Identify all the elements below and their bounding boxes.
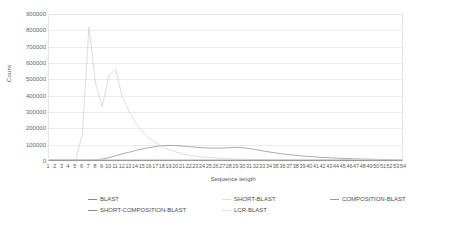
y-axis-tick-label: 300000 <box>2 109 46 115</box>
x-axis-tick-label: 30 <box>239 163 245 169</box>
x-axis-tick-label: 45 <box>340 163 346 169</box>
x-axis-tick-label: 13 <box>125 163 131 169</box>
legend-item[interactable]: LCR-BLAST <box>222 207 267 214</box>
x-axis-tick-label: 19 <box>166 163 172 169</box>
x-axis-tick-label: 46 <box>346 163 352 169</box>
x-axis-tick-label: 42 <box>320 163 326 169</box>
legend-item[interactable]: SHORT-BLAST <box>222 196 276 203</box>
y-axis-tick-label: 400000 <box>2 93 46 99</box>
x-axis-tick-label: 17 <box>152 163 158 169</box>
x-axis-tick-label: 18 <box>159 163 165 169</box>
y-axis-tick-label: 0 <box>2 158 46 164</box>
x-axis-tick-label: 23 <box>192 163 198 169</box>
legend-item-label: BLAST <box>100 196 119 203</box>
series-lines <box>49 14 402 160</box>
x-axis-tick-label: 32 <box>253 163 259 169</box>
plot-inner <box>49 14 402 160</box>
x-axis-tick-label: 47 <box>353 163 359 169</box>
legend: BLASTSHORT-BLASTCOMPOSITION-BLAST SHORT-… <box>0 196 466 224</box>
x-axis-tick-label: 52 <box>387 163 393 169</box>
legend-item[interactable]: BLAST <box>88 196 119 203</box>
x-axis-tick-label: 7 <box>87 163 90 169</box>
legend-line-swatch-icon <box>88 199 97 200</box>
x-axis-tick-labels: 1234567891011121314151617181920212223242… <box>48 163 403 175</box>
x-axis-tick-label: 40 <box>306 163 312 169</box>
x-axis-tick-label: 35 <box>273 163 279 169</box>
x-axis-tick-label: 27 <box>219 163 225 169</box>
x-axis-tick-label: 37 <box>286 163 292 169</box>
y-axis-tick-label: 600000 <box>2 60 46 66</box>
x-axis-tick-label: 48 <box>360 163 366 169</box>
x-axis-tick-label: 54 <box>400 163 406 169</box>
x-axis-tick-label: 15 <box>139 163 145 169</box>
y-axis-tick-label: 900000 <box>2 11 46 17</box>
x-axis-tick-label: 34 <box>266 163 272 169</box>
x-axis-tick-label: 49 <box>367 163 373 169</box>
x-axis-tick-label: 43 <box>326 163 332 169</box>
x-axis-tick-label: 12 <box>119 163 125 169</box>
x-axis-tick-label: 33 <box>259 163 265 169</box>
x-axis-tick-label: 41 <box>313 163 319 169</box>
y-axis-tick-label: 500000 <box>2 76 46 82</box>
series-line <box>49 145 402 160</box>
x-axis-tick-label: 11 <box>112 163 118 169</box>
x-axis-title: Sequence length <box>0 176 466 182</box>
plot-area <box>48 14 403 161</box>
legend-item-label: LCR-BLAST <box>234 207 267 214</box>
x-axis-tick-label: 50 <box>373 163 379 169</box>
legend-line-swatch-icon <box>88 210 97 211</box>
x-axis-tick-label: 36 <box>279 163 285 169</box>
y-axis-tick-label: 200000 <box>2 125 46 131</box>
x-axis-tick-label: 3 <box>60 163 63 169</box>
x-axis-tick-label: 26 <box>212 163 218 169</box>
x-axis-tick-label: 1 <box>47 163 50 169</box>
x-axis-tick-label: 28 <box>226 163 232 169</box>
x-axis-tick-label: 22 <box>186 163 192 169</box>
legend-line-swatch-icon <box>222 199 231 200</box>
x-axis-tick-label: 9 <box>100 163 103 169</box>
x-axis-tick-label: 51 <box>380 163 386 169</box>
x-axis-tick-label: 29 <box>233 163 239 169</box>
x-axis-tick-label: 21 <box>179 163 185 169</box>
x-axis-tick-label: 2 <box>53 163 56 169</box>
x-axis-tick-label: 6 <box>80 163 83 169</box>
x-axis-tick-label: 25 <box>206 163 212 169</box>
x-axis-tick-label: 31 <box>246 163 252 169</box>
chart-container: Count 9000008000007000006000005000004000… <box>0 0 466 234</box>
x-axis-tick-label: 14 <box>132 163 138 169</box>
legend-item[interactable]: SHORT-COMPOSITION-BLAST <box>88 207 186 214</box>
legend-row-2: SHORT-COMPOSITION-BLASTLCR-BLAST <box>0 207 466 218</box>
x-axis-tick-label: 39 <box>300 163 306 169</box>
legend-item-label: COMPOSITION-BLAST <box>342 196 406 203</box>
x-axis-tick-label: 44 <box>333 163 339 169</box>
x-axis-tick-label: 16 <box>145 163 151 169</box>
legend-row-1: BLASTSHORT-BLASTCOMPOSITION-BLAST <box>0 196 466 207</box>
x-axis-tick-label: 10 <box>105 163 111 169</box>
x-axis-tick-label: 38 <box>293 163 299 169</box>
y-axis-tick-labels: 9000008000007000006000005000004000003000… <box>0 14 46 161</box>
legend-item-label: SHORT-COMPOSITION-BLAST <box>100 207 186 214</box>
y-axis-tick-label: 100000 <box>2 142 46 148</box>
x-axis-tick-label: 4 <box>67 163 70 169</box>
y-axis-tick-label: 700000 <box>2 44 46 50</box>
x-axis-tick-label: 8 <box>93 163 96 169</box>
x-axis-tick-label: 24 <box>199 163 205 169</box>
x-axis-tick-label: 20 <box>172 163 178 169</box>
x-axis-tick-label: 5 <box>73 163 76 169</box>
legend-line-swatch-icon <box>222 210 231 211</box>
series-line <box>49 27 402 160</box>
legend-line-swatch-icon <box>330 199 339 200</box>
x-axis-tick-label: 53 <box>393 163 399 169</box>
legend-item-label: SHORT-BLAST <box>234 196 276 203</box>
y-axis-tick-label: 800000 <box>2 27 46 33</box>
legend-item[interactable]: COMPOSITION-BLAST <box>330 196 406 203</box>
